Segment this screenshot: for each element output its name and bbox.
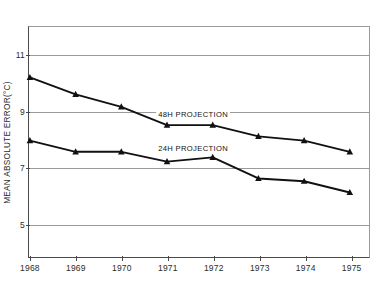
x-tick-label-1968: 1968 [20,263,40,273]
y-tick-label-7: 7 [20,163,25,173]
series-lines [29,27,369,257]
y-tick-label-5: 5 [20,220,25,230]
data-point-marker [27,137,34,143]
x-tick-label-1970: 1970 [112,263,132,273]
x-tick-label-1971: 1971 [158,263,178,273]
x-tick-label-1973: 1973 [250,263,270,273]
x-tick-label-1975: 1975 [342,263,362,273]
series-annotation-1: 48H PROJECTION [156,110,230,119]
data-point-marker [27,74,34,80]
plot-area: 57911 19681969197019711972197319741975 4… [28,26,370,258]
x-tick-label-1969: 1969 [66,263,86,273]
y-tick-label-11: 11 [16,50,25,60]
y-axis-label: MEAN ABSOLUTE ERROR(°C) [0,26,15,258]
x-tick-label-1974: 1974 [296,263,316,273]
y-tick-label-9: 9 [20,107,25,117]
series-annotation-2: 24H PROJECTION [156,144,230,153]
y-axis-label-text: MEAN ABSOLUTE ERROR(°C) [3,81,12,204]
x-tick-label-1972: 1972 [204,263,224,273]
chart-figure: MEAN ABSOLUTE ERROR(°C) 57911 1968196919… [0,0,383,287]
